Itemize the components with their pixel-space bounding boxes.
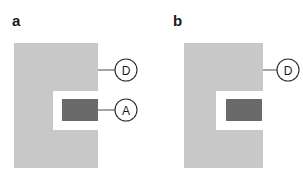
panel-b-insert-shape (226, 99, 262, 121)
panel-a-label: a (12, 12, 21, 29)
panel-b-callout-label-d: D (284, 64, 293, 78)
panel-b-label: b (173, 12, 182, 29)
figure-container: a D A b D (0, 0, 303, 179)
panel-a-callout-label-d: D (122, 64, 131, 78)
panel-a-callout-label-a: A (122, 104, 130, 118)
panel-a-insert-shape (62, 99, 98, 121)
schematic-figure: a D A b D (0, 0, 303, 179)
